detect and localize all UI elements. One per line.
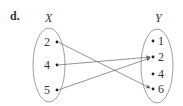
range-point [152,88,155,91]
problem-label: d. [10,9,20,23]
range-element: 6 [158,82,164,96]
domain-point [56,41,59,44]
range-point [152,73,155,76]
range-point [152,56,155,59]
domain-element: 2 [44,35,50,49]
mapping-diagram: d. X Y 2 4 5 1 2 4 6 [0,0,183,106]
mapping-arrow [58,58,150,90]
range-ellipse [141,29,173,103]
mapping-arrow [58,57,150,65]
domain-point [56,89,59,92]
domain-element: 4 [44,58,50,72]
range-element: 2 [158,50,164,64]
range-point [152,40,155,43]
set-y-label: Y [155,11,163,25]
domain-point [56,64,59,67]
range-element: 4 [158,67,164,81]
domain-element: 5 [44,83,50,97]
mapping-arrow [58,42,150,88]
range-element: 1 [158,34,164,48]
set-x-label: X [44,11,53,25]
